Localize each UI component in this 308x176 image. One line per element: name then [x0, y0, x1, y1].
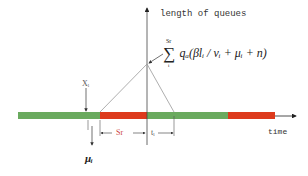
queue-formula: ∑ Sr i qₐ(βlᵢ / vᵢ + μᵢ + n)	[163, 42, 267, 62]
formula-pointer-arrow	[149, 54, 163, 63]
triangle-right-leg	[147, 64, 174, 112]
x-axis-label: time	[268, 127, 287, 136]
xi-label: Xᵢ	[82, 79, 89, 88]
formula-expression: qₐ(βlᵢ / vᵢ + μᵢ + n)	[179, 46, 266, 60]
sum-upper-limit: Sr	[166, 38, 171, 44]
red-segment-2	[228, 112, 275, 119]
ti-label: tᵢ	[151, 128, 155, 137]
sum-lower-limit: i	[168, 63, 169, 68]
red-segment-1	[100, 112, 147, 119]
sum-symbol: ∑ Sr i	[163, 44, 179, 63]
diagram-graphics	[0, 0, 308, 176]
green-segment-1	[18, 112, 100, 119]
triangle-left-leg	[100, 64, 147, 112]
queue-length-diagram: length of queues time ∑ Sr i qₐ(βlᵢ / vᵢ…	[0, 0, 308, 176]
mu-label: μᵢ	[85, 152, 93, 164]
y-axis-label: length of queues	[160, 9, 246, 19]
sr-label: Sr	[116, 128, 123, 137]
green-segment-2	[147, 112, 228, 119]
